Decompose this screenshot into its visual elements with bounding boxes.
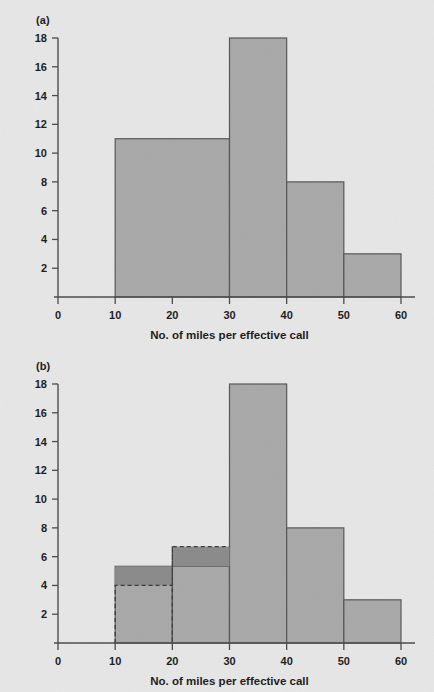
y-tick-label: 8	[41, 522, 47, 534]
histogram-a: 010203040506024681012141618No. of miles …	[0, 0, 434, 346]
x-tick-label: 50	[338, 655, 350, 667]
y-tick-label: 4	[41, 579, 48, 591]
x-tick-label: 10	[109, 309, 121, 321]
histogram-bar	[344, 600, 401, 643]
y-tick-label: 16	[35, 61, 47, 73]
y-tick-label: 16	[35, 407, 47, 419]
x-axis-title: No. of miles per effective call	[150, 329, 309, 341]
chart-panel-b: (b) 010203040506024681012141618No. of mi…	[0, 346, 434, 692]
y-tick-label: 6	[41, 205, 47, 217]
x-axis-title: No. of miles per effective call	[150, 675, 309, 687]
x-tick-label: 60	[395, 655, 407, 667]
y-tick-label: 12	[35, 118, 47, 130]
x-tick-label: 30	[223, 655, 235, 667]
y-tick-label: 2	[41, 608, 47, 620]
histogram-b: 010203040506024681012141618No. of miles …	[0, 346, 434, 692]
histogram-bar	[344, 254, 401, 297]
x-tick-label: 40	[281, 309, 293, 321]
y-tick-label: 4	[41, 233, 48, 245]
x-tick-label: 0	[55, 655, 61, 667]
histogram-bar	[287, 182, 344, 297]
histogram-bar	[287, 528, 344, 643]
x-tick-label: 40	[281, 655, 293, 667]
y-tick-label: 6	[41, 551, 47, 563]
figure-page: (a) 010203040506024681012141618No. of mi…	[0, 0, 434, 692]
x-tick-label: 20	[166, 309, 178, 321]
x-tick-label: 20	[166, 655, 178, 667]
x-tick-label: 60	[395, 309, 407, 321]
chart-panel-a: (a) 010203040506024681012141618No. of mi…	[0, 0, 434, 346]
y-tick-label: 14	[35, 90, 48, 102]
y-tick-label: 18	[35, 378, 47, 390]
y-tick-label: 14	[35, 436, 48, 448]
histogram-bar	[230, 38, 287, 297]
overlay-difference-region	[115, 566, 172, 585]
y-tick-label: 12	[35, 464, 47, 476]
x-tick-label: 50	[338, 309, 350, 321]
overlay-difference-region	[172, 547, 229, 567]
histogram-bar	[172, 566, 229, 643]
histogram-bar	[115, 139, 229, 297]
x-tick-label: 0	[55, 309, 61, 321]
y-tick-label: 8	[41, 176, 47, 188]
y-tick-label: 18	[35, 32, 47, 44]
x-tick-label: 10	[109, 655, 121, 667]
x-tick-label: 30	[223, 309, 235, 321]
y-tick-label: 10	[35, 493, 47, 505]
y-tick-label: 10	[35, 147, 47, 159]
histogram-bar	[230, 384, 287, 643]
y-tick-label: 2	[41, 262, 47, 274]
